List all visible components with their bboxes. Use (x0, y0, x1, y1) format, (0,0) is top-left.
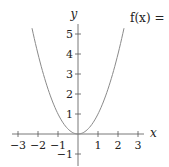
x-axis-label: x (150, 126, 157, 140)
y-tick-label: 5 (66, 28, 73, 41)
x-tick-label: −3 (10, 139, 26, 152)
function-plot: −3−2−1123−112345 y x f(x) = : (0, 0, 169, 167)
y-tick-label: 3 (66, 68, 73, 81)
y-tick-label: 4 (66, 48, 73, 61)
x-tick-label: 1 (95, 139, 102, 152)
y-tick-label: 2 (66, 88, 73, 101)
x-tick-label: 2 (115, 139, 122, 152)
function-annotation: f(x) = : (130, 11, 169, 25)
y-axis-label: y (70, 7, 78, 21)
y-tick-label: −1 (57, 148, 73, 161)
axes: −3−2−1123−112345 (10, 24, 144, 166)
x-tick-label: 3 (135, 139, 142, 152)
x-tick-label: −2 (30, 139, 46, 152)
y-tick-label: 1 (66, 108, 73, 121)
